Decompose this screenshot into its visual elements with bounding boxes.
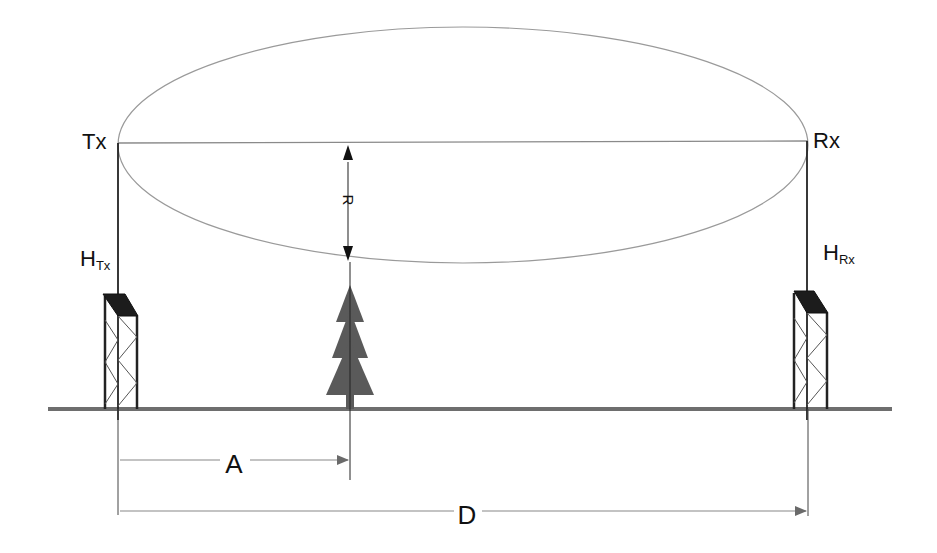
rx-height-sub: Rx	[839, 252, 855, 267]
tx-label: Tx	[82, 129, 106, 154]
radius-label: R	[340, 195, 357, 206]
tx-height-main: H	[80, 246, 96, 271]
distance-d-label: D	[458, 500, 477, 530]
rx-height-label: HRx	[823, 240, 855, 267]
tx-height-label: HTx	[80, 246, 111, 273]
tx-height-sub: Tx	[96, 258, 111, 273]
tx-tower	[103, 143, 138, 420]
rx-tower	[794, 141, 828, 420]
distance-a-label: A	[225, 449, 243, 479]
rx-label: Rx	[813, 128, 840, 153]
fresnel-zone-ellipse	[118, 27, 808, 263]
rx-height-main: H	[823, 240, 839, 265]
tree-obstacle	[326, 262, 374, 480]
fresnel-zone-diagram: R A D Tx Rx HTx HRx	[0, 0, 937, 553]
line-of-sight	[118, 141, 808, 143]
